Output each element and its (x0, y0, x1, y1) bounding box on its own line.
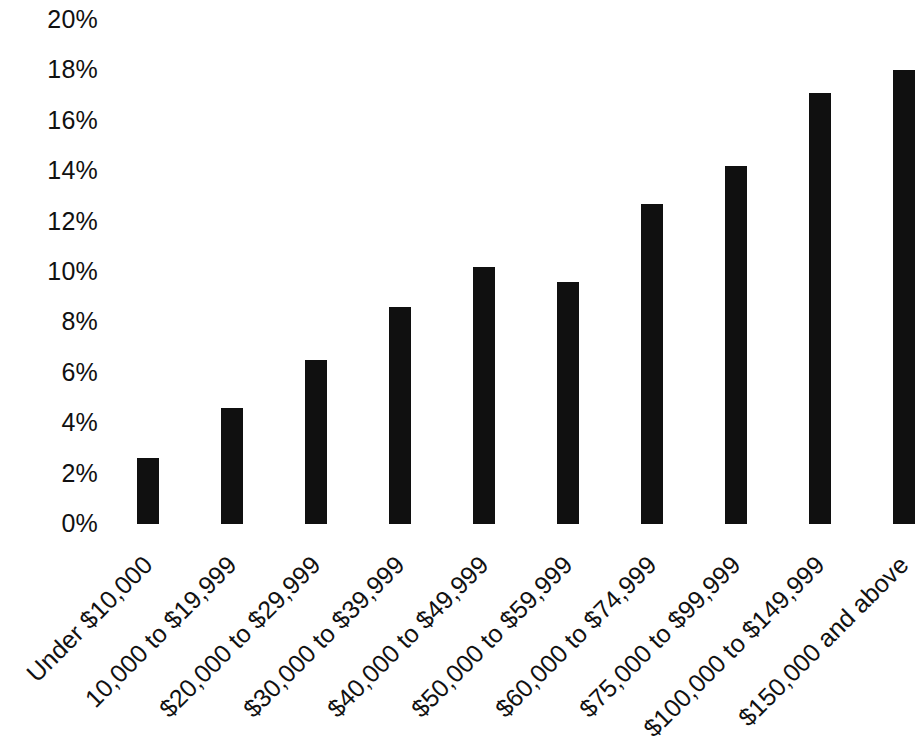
bar (725, 166, 747, 524)
bar (809, 93, 831, 524)
bar (893, 70, 915, 524)
bar (305, 360, 327, 524)
bar (473, 267, 495, 524)
bar (137, 458, 159, 524)
bar (557, 282, 579, 524)
bar (389, 307, 411, 524)
bar (221, 408, 243, 524)
bar (641, 204, 663, 524)
